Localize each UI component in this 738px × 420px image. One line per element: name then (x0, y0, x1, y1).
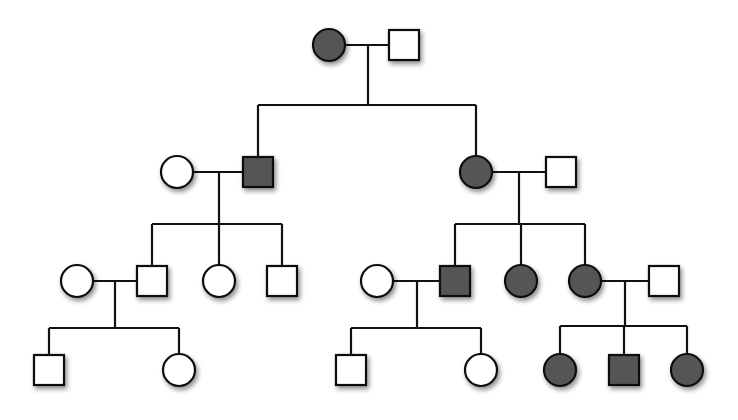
female-circle-icon-affected (313, 29, 345, 61)
male-square-icon-unaffected (137, 266, 167, 296)
female-circle-icon-affected (460, 156, 492, 188)
male-square-icon-unaffected (34, 355, 64, 385)
female-circle-icon-affected (671, 354, 703, 386)
male-square-icon-affected (440, 266, 470, 296)
female-circle-icon-unaffected (61, 265, 93, 297)
male-square-icon-affected (243, 157, 273, 187)
female-circle-icon-affected (505, 265, 537, 297)
male-square-icon-unaffected (336, 355, 366, 385)
female-circle-icon-unaffected (163, 354, 195, 386)
male-square-icon-unaffected (546, 157, 576, 187)
male-square-icon-affected (609, 355, 639, 385)
female-circle-icon-unaffected (465, 354, 497, 386)
female-circle-icon-unaffected (361, 265, 393, 297)
male-square-icon-unaffected (389, 30, 419, 60)
pedigree-chart (0, 0, 738, 420)
female-circle-icon-affected (544, 354, 576, 386)
female-circle-icon-unaffected (161, 156, 193, 188)
male-square-icon-unaffected (649, 266, 679, 296)
female-circle-icon-affected (569, 265, 601, 297)
relationship-lines (49, 45, 687, 355)
female-circle-icon-unaffected (203, 265, 235, 297)
male-square-icon-unaffected (267, 266, 297, 296)
